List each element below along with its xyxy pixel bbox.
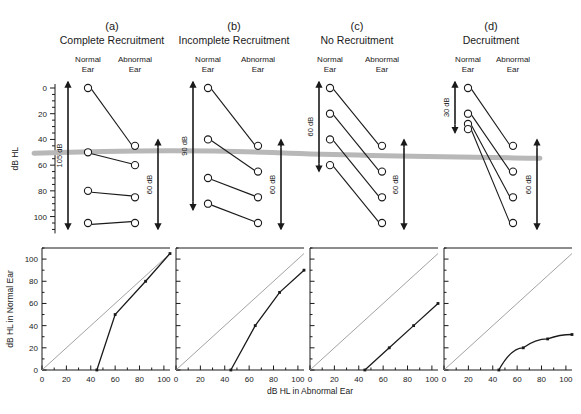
loudness-match-line — [472, 131, 510, 222]
normal-ear-point — [326, 84, 333, 91]
bottom-x-tick-label: 80 — [269, 375, 278, 384]
abnormal-ear-point — [131, 219, 138, 226]
loudness-match-line — [92, 222, 132, 225]
normal-ear-label-d: Normal — [455, 55, 481, 64]
bottom-y-tick-label: 60 — [29, 299, 38, 308]
bottom-x-tick-label: 100 — [291, 375, 305, 384]
panel-letter-c: (c) — [351, 20, 364, 32]
bottom-x-tick-label: 80 — [135, 375, 144, 384]
bottom-y-tick-label: 20 — [29, 344, 38, 353]
identity-reference-line-a-bottom — [42, 254, 170, 370]
bottom-y-tick-label: 80 — [29, 277, 38, 286]
abnormal-ear-point — [509, 142, 516, 149]
curve-data-point — [363, 369, 366, 372]
loudness-growth-curve-b-bottom — [231, 270, 304, 370]
figure-canvas: 020406080100dB HL(a)Complete Recruitment… — [0, 0, 581, 414]
curve-data-point — [546, 338, 549, 341]
loudness-match-line — [334, 115, 379, 170]
normal-ear-point — [84, 187, 91, 194]
bottom-x-tick-label: 0 — [40, 375, 45, 384]
normal-ear-label-c: Normal — [317, 55, 343, 64]
normal-ear-label-a: Normal — [75, 55, 101, 64]
bottom-x-tick-label: 40 — [86, 375, 95, 384]
loudness-match-line — [92, 192, 132, 196]
abnormal-ear-point — [378, 142, 385, 149]
loudness-match-line — [212, 89, 255, 144]
top-y-tick-label: 20 — [38, 110, 47, 119]
curve-data-point — [169, 252, 172, 255]
abnormal-ear-point — [254, 142, 261, 149]
bottom-x-tick-label: 80 — [403, 375, 412, 384]
bottom-x-tick-label: 60 — [245, 375, 254, 384]
abnormal-ear-label-d: Abnormal — [496, 55, 530, 64]
curve-data-point — [437, 302, 440, 305]
panel-title-d: Decruitment — [463, 34, 520, 46]
bottom-x-tick-label: 40 — [220, 375, 229, 384]
normal-ear-point — [204, 174, 211, 181]
loudness-match-line — [212, 205, 255, 221]
left-range-label: 105 dB — [55, 144, 64, 168]
curve-data-point — [229, 369, 232, 372]
identity-reference-line-c-bottom — [310, 254, 438, 370]
normal-ear-label-b: Normal — [195, 55, 221, 64]
bottom-y-axis-title: dB HL in Normal Ear — [5, 270, 15, 348]
abnormal-ear-point — [254, 194, 261, 201]
top-y-axis-title: dB HL — [10, 147, 20, 171]
normal-ear-label-d: Ear — [462, 65, 475, 74]
bottom-y-tick-label: 0 — [34, 366, 39, 375]
abnormal-ear-point — [254, 219, 261, 226]
right-range-label: 60 dB — [524, 175, 533, 195]
abnormal-ear-label-d: Ear — [507, 65, 520, 74]
bottom-x-tick-label: 100 — [425, 375, 439, 384]
curve-data-point — [412, 324, 415, 327]
bottom-x-tick-label: 100 — [559, 375, 573, 384]
hearing-threshold-band — [34, 151, 540, 159]
panel-title-a: Complete Recruitment — [60, 34, 165, 46]
abnormal-ear-point — [254, 168, 261, 175]
bottom-x-tick-label: 100 — [157, 375, 171, 384]
loudness-growth-curve-c-bottom — [365, 303, 438, 370]
loudness-match-line — [334, 167, 379, 222]
normal-ear-point — [464, 126, 471, 133]
left-range-label: 30 dB — [442, 97, 451, 117]
curve-data-point — [144, 280, 147, 283]
normal-ear-point — [84, 219, 91, 226]
curve-data-point — [95, 369, 98, 372]
curve-data-point — [278, 291, 281, 294]
bottom-x-tick-label: 80 — [537, 375, 546, 384]
curve-data-point — [303, 269, 306, 272]
normal-ear-label-c: Ear — [324, 65, 337, 74]
normal-ear-point — [326, 110, 333, 117]
abnormal-ear-point — [131, 142, 138, 149]
audiogram-recruitment-figure: 020406080100dB HL(a)Complete Recruitment… — [0, 0, 581, 414]
abnormal-ear-point — [509, 194, 516, 201]
top-y-tick-label: 100 — [34, 213, 48, 222]
normal-ear-point — [204, 136, 211, 143]
bottom-x-tick-label: 60 — [379, 375, 388, 384]
bottom-x-tick-label: 0 — [174, 375, 179, 384]
curve-data-point — [114, 313, 117, 316]
normal-ear-point — [464, 110, 471, 117]
abnormal-ear-label-c: Ear — [376, 65, 389, 74]
abnormal-ear-point — [131, 162, 138, 169]
abnormal-ear-label-a: Ear — [129, 65, 142, 74]
loudness-match-line — [212, 179, 255, 195]
curve-data-point — [388, 346, 391, 349]
panel-letter-d: (d) — [484, 20, 497, 32]
loudness-match-line — [334, 89, 379, 144]
loudness-growth-curve-a-bottom — [97, 254, 170, 370]
curve-data-point — [571, 333, 574, 336]
normal-ear-point — [204, 200, 211, 207]
abnormal-ear-point — [378, 194, 385, 201]
normal-ear-point — [326, 136, 333, 143]
normal-ear-point — [204, 84, 211, 91]
curve-data-point — [497, 369, 500, 372]
panel-letter-b: (b) — [227, 20, 240, 32]
bottom-y-tick-label: 100 — [25, 255, 39, 264]
normal-ear-point — [464, 84, 471, 91]
bottom-x-tick-label: 20 — [62, 375, 71, 384]
right-range-label: 60 dB — [145, 175, 154, 195]
normal-ear-point — [326, 162, 333, 169]
bottom-x-tick-label: 60 — [513, 375, 522, 384]
abnormal-ear-label-c: Abnormal — [365, 55, 399, 64]
